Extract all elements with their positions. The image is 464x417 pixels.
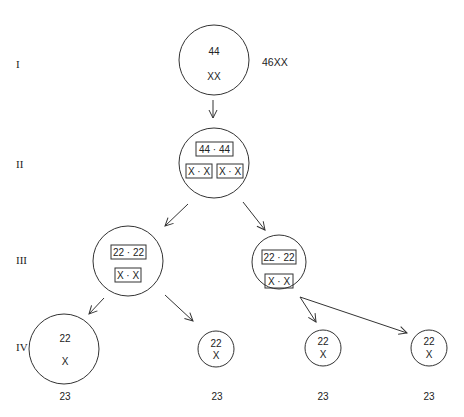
gamete-2: 22 X 23 [198, 331, 234, 402]
cell1-sex-chromosomes: XX [207, 71, 221, 82]
cell2-sex-left: X · X [188, 166, 211, 177]
gamete2-sex: X [213, 350, 220, 361]
arrow-ii-to-iii-left [165, 204, 188, 226]
gamete3-sex: X [320, 349, 327, 360]
level-label-iv: IV [16, 341, 28, 353]
cell-level-3-right: 22 · 22 X · X [252, 235, 306, 289]
cell-level-2: 44 · 44 X · X X · X [179, 128, 249, 198]
cell-level-3-left: 22 · 22 X · X [93, 226, 163, 296]
arrow-iii-to-iv-4 [300, 297, 407, 333]
gamete-3: 22 X 23 [305, 330, 341, 402]
gamete4-count: 23 [423, 391, 435, 402]
cell1-autosomes: 44 [208, 46, 220, 57]
gamete1-autosomes: 22 [59, 333, 71, 344]
gamete-1: 22 X 23 [29, 314, 99, 402]
level-label-ii: II [16, 158, 24, 170]
gamete-4: 22 X 23 [411, 330, 447, 402]
arrow-iii-to-iv-3 [300, 297, 316, 322]
gamete1-count: 23 [59, 391, 71, 402]
cell3-left-sex: X · X [117, 270, 140, 281]
karyotype-label: 46XX [262, 56, 288, 68]
gamete1-sex: X [62, 356, 69, 367]
gamete3-autosomes: 22 [317, 336, 329, 347]
cell-level-1: 44 XX [179, 25, 249, 95]
level-label-iii: III [16, 254, 27, 266]
gamete2-autosomes: 22 [210, 338, 222, 349]
cell3-left-autosomes: 22 · 22 [113, 247, 145, 258]
gamete4-autosomes: 22 [423, 336, 435, 347]
arrow-ii-to-iii-right [243, 202, 265, 230]
cell2-sex-right: X · X [219, 166, 242, 177]
gamete3-count: 23 [317, 391, 329, 402]
arrow-iii-to-iv-1 [89, 298, 104, 314]
arrow-iii-to-iv-2 [165, 295, 193, 321]
cell2-autosomes: 44 · 44 [199, 144, 231, 155]
cell3-right-autosomes: 22 · 22 [263, 252, 295, 263]
gamete4-sex: X [426, 349, 433, 360]
cell3-right-sex: X · X [268, 276, 291, 287]
level-label-i: I [16, 58, 20, 70]
gamete2-count: 23 [211, 391, 223, 402]
meiosis-diagram: I II III IV 44 XX 46XX 44 · 44 X · X X ·… [0, 0, 464, 417]
